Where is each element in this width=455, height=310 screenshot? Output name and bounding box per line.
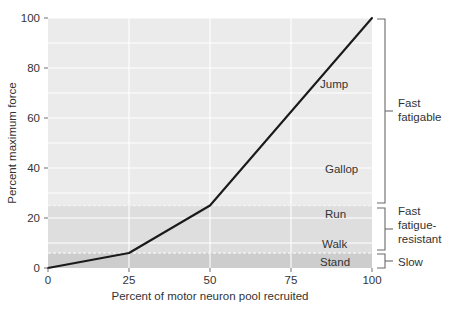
x-tick-labels: 0 25 50 75 100 xyxy=(45,274,382,286)
bracket-labels: Fast fatigable Fast fatigue- resistant S… xyxy=(398,97,442,268)
recruitment-chart: 0 20 40 60 80 100 0 25 50 75 100 Percent… xyxy=(0,0,455,310)
annotation-gallop: Gallop xyxy=(325,163,358,175)
x-tick-label-50: 50 xyxy=(204,274,217,286)
y-tick-label-80: 80 xyxy=(27,62,40,74)
bracket-label-slow: Slow xyxy=(398,256,424,268)
x-tick-label-100: 100 xyxy=(362,274,381,286)
bracket-label-fast-fatigable-line1: Fast xyxy=(398,97,421,109)
y-axis xyxy=(44,18,48,268)
bracket-slow xyxy=(377,254,385,268)
x-tick-label-25: 25 xyxy=(123,274,136,286)
y-tick-label-40: 40 xyxy=(27,162,40,174)
bracket-label-fast-fatigable-line2: fatigable xyxy=(398,111,441,123)
x-axis xyxy=(48,268,372,272)
bracket-fast-fatigable xyxy=(377,19,385,203)
motor-unit-brackets xyxy=(377,19,393,268)
y-tick-label-60: 60 xyxy=(27,112,40,124)
bracket-label-ffr-line1: Fast xyxy=(398,205,421,217)
y-axis-title: Percent maximum force xyxy=(6,82,18,203)
y-tick-label-100: 100 xyxy=(21,12,40,24)
annotation-stand: Stand xyxy=(320,256,350,268)
x-tick-label-0: 0 xyxy=(45,274,51,286)
x-axis-title: Percent of motor neuron pool recruited xyxy=(112,290,309,302)
annotation-walk: Walk xyxy=(322,238,347,250)
y-tick-label-20: 20 xyxy=(27,212,40,224)
annotation-run: Run xyxy=(325,208,346,220)
bracket-label-ffr-line3: resistant xyxy=(398,233,442,245)
annotation-jump: Jump xyxy=(320,78,348,90)
bracket-label-ffr-line2: fatigue- xyxy=(398,219,437,231)
bracket-fast-fatigue-resistant xyxy=(377,208,385,250)
y-tick-label-0: 0 xyxy=(34,262,40,274)
x-tick-label-75: 75 xyxy=(285,274,298,286)
y-tick-labels: 0 20 40 60 80 100 xyxy=(21,12,40,274)
figure-container: 0 20 40 60 80 100 0 25 50 75 100 Percent… xyxy=(0,0,455,310)
